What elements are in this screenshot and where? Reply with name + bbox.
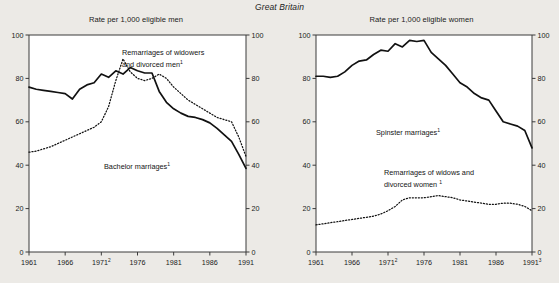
svg-text:19913: 19913 [523, 258, 542, 267]
svg-text:1976: 1976 [416, 258, 432, 267]
svg-text:1986: 1986 [202, 258, 218, 267]
spinster-label-sup: 1 [437, 127, 440, 133]
svg-text:1961: 1961 [21, 258, 37, 267]
svg-text:100: 100 [252, 31, 264, 40]
remarriages-women-sup: 1 [439, 179, 442, 185]
svg-text:60: 60 [252, 117, 260, 126]
svg-text:60: 60 [303, 117, 311, 126]
svg-text:20: 20 [303, 204, 311, 213]
remarriages-women-label: Remarriages of widows and divorced women… [384, 168, 474, 189]
svg-text:80: 80 [16, 74, 24, 83]
svg-text:40: 40 [16, 161, 24, 170]
svg-text:1991: 1991 [238, 258, 254, 267]
x-ticks-women: 196119661971219761981198619913 [308, 252, 542, 267]
spinster-label-text: Spinster marriages [376, 128, 437, 137]
svg-text:20: 20 [16, 204, 24, 213]
svg-text:1986: 1986 [488, 258, 504, 267]
bachelor-label: Bachelor marriages1 [104, 160, 170, 172]
remarriages-men-label: Remarriages of widowers and divorced men… [122, 48, 204, 69]
svg-text:1976: 1976 [130, 258, 146, 267]
svg-text:1966: 1966 [344, 258, 360, 267]
svg-text:1981: 1981 [166, 258, 182, 267]
svg-text:19712: 19712 [92, 258, 111, 267]
panel-women-svg: 002020404060608080100100 196119661971219… [280, 0, 559, 283]
svg-text:0: 0 [538, 248, 542, 257]
svg-text:20: 20 [538, 204, 546, 213]
panel-men: Rate per 1,000 eligible men 002020404060… [0, 0, 280, 283]
svg-text:1981: 1981 [452, 258, 468, 267]
bachelor-label-sup: 1 [167, 161, 170, 167]
svg-text:60: 60 [538, 117, 546, 126]
svg-text:20: 20 [252, 204, 260, 213]
remarriages-men-line2: and divorced men [122, 60, 180, 69]
remarriages-women-line2: divorced women [384, 180, 437, 189]
svg-text:1966: 1966 [57, 258, 73, 267]
svg-text:40: 40 [303, 161, 311, 170]
svg-text:100: 100 [12, 31, 24, 40]
svg-text:100: 100 [299, 31, 311, 40]
svg-text:0: 0 [307, 248, 311, 257]
remarriages-women-line1: Remarriages of widows and [384, 168, 474, 177]
svg-text:60: 60 [16, 117, 24, 126]
spinster-label: Spinster marriages1 [376, 126, 440, 138]
svg-text:1961: 1961 [308, 258, 324, 267]
svg-text:19712: 19712 [379, 258, 398, 267]
svg-text:80: 80 [303, 74, 311, 83]
x-ticks-men: 19611966197121976198119861991 [21, 252, 254, 267]
svg-text:40: 40 [538, 161, 546, 170]
svg-text:80: 80 [538, 74, 546, 83]
panel-women: Rate per 1,000 eligible women 0020204040… [280, 0, 559, 283]
bachelor-label-text: Bachelor marriages [104, 162, 167, 171]
panel-men-svg: 002020404060608080100100 196119661971219… [0, 0, 280, 283]
figure-root: Great Britain Rate per 1,000 eligible me… [0, 0, 559, 283]
svg-text:100: 100 [538, 31, 550, 40]
remarriages-men-sup: 1 [180, 59, 183, 65]
svg-text:80: 80 [252, 74, 260, 83]
svg-text:0: 0 [20, 248, 24, 257]
svg-text:40: 40 [252, 161, 260, 170]
remarriages-men-line1: Remarriages of widowers [122, 48, 204, 57]
svg-text:0: 0 [252, 248, 256, 257]
